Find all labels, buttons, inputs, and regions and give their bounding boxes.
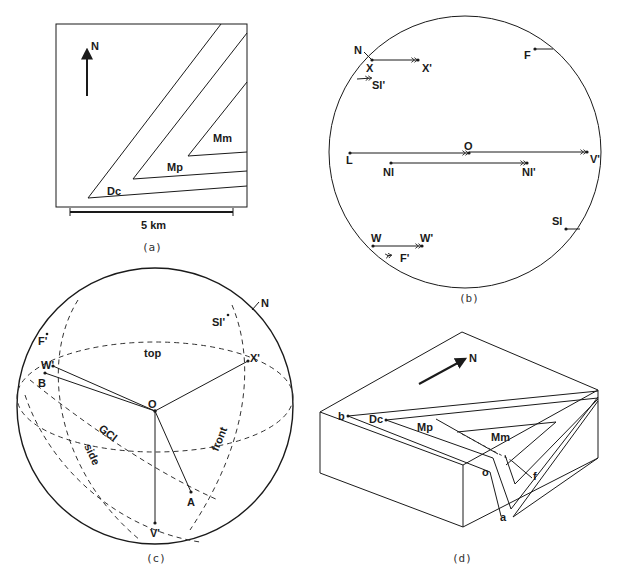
label-w-prime: W' — [41, 359, 54, 371]
point-o: o — [482, 466, 489, 478]
block-left-face — [320, 412, 463, 527]
label-x-prime: X' — [422, 62, 432, 74]
label-nl: Nl — [383, 166, 394, 178]
label-w-prime: W' — [420, 232, 433, 244]
caption-b: (b) — [459, 292, 479, 305]
north-arrow-icon — [419, 359, 465, 384]
label-n: N — [354, 44, 362, 56]
label-f-prime: F' — [400, 252, 410, 264]
label-sl-prime: Sl' — [212, 316, 225, 328]
label-l: L — [346, 154, 353, 166]
north-label: N — [469, 352, 477, 364]
label-n: N — [261, 297, 269, 309]
unit-label-mp: Mp — [417, 421, 433, 433]
unit-label-mp: Mp — [167, 161, 183, 173]
scale-bar — [70, 208, 233, 216]
label-sl-prime: Sl' — [372, 79, 385, 91]
block-right-face — [463, 390, 598, 527]
label-top: top — [144, 347, 161, 359]
caption-c: (c) — [146, 552, 166, 565]
label-side: side — [82, 442, 102, 467]
label-front: front — [209, 425, 230, 453]
label-x: X — [366, 62, 374, 74]
panel-c-sphere: N Sl' F' top X' W' B O — [17, 268, 293, 565]
label-a: A — [187, 496, 195, 508]
label-b: B — [38, 377, 46, 389]
unit-label-mm: Mm — [491, 431, 510, 443]
panel-b-stereonet: N X X' Sl' F L O V' Nl Nl' W W' — [329, 16, 601, 305]
label-o: O — [148, 398, 157, 410]
block-top-face — [320, 332, 598, 465]
point-a: a — [500, 511, 507, 523]
label-o: O — [464, 140, 473, 152]
caption-a: (a) — [142, 241, 162, 254]
point-b: b — [338, 410, 345, 422]
panel-d-block-diagram: N b Dc Mp Mm o f a (d) — [320, 332, 598, 565]
label-gcl: GCl — [97, 422, 120, 444]
label-f: F — [524, 49, 531, 61]
caption-d: (d) — [452, 552, 472, 565]
scale-bar-label: 5 km — [141, 219, 166, 231]
unit-label-dc: Dc — [369, 413, 383, 425]
label-w: W — [371, 232, 382, 244]
point-f: f — [533, 470, 537, 482]
label-nl-prime: Nl' — [522, 166, 536, 178]
unit-label-dc: Dc — [107, 185, 121, 197]
unit-label-mm: Mm — [213, 132, 232, 144]
label-v-prime: V' — [590, 153, 600, 165]
figure-canvas: N Mm Mp Dc 5 km (a) N X X' Sl' — [0, 0, 625, 574]
label-v-prime: V' — [150, 527, 160, 539]
north-label: N — [91, 40, 99, 52]
label-x-prime: X' — [250, 352, 260, 364]
label-f-prime: F' — [38, 335, 48, 347]
panel-a-map: N Mm Mp Dc 5 km (a) — [56, 24, 247, 254]
label-sl: Sl — [552, 215, 562, 227]
